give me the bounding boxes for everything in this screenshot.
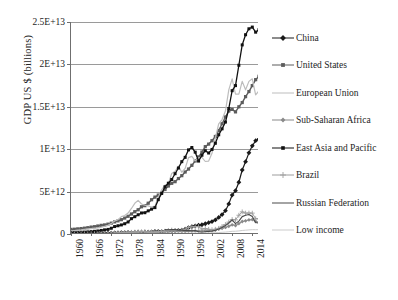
x-tick-mark	[71, 233, 72, 236]
legend-item-united-states[interactable]: United States	[272, 52, 398, 80]
x-tick-mark	[152, 233, 153, 236]
legend-item-label: Russian Federation	[296, 198, 369, 208]
legend-item-low-income[interactable]: Low income	[272, 217, 398, 245]
legend-item-label: China	[296, 33, 319, 43]
x-tick-mark	[172, 233, 173, 236]
y-tick-label: 1.5E+13	[32, 102, 71, 112]
x-tick-mark	[111, 233, 112, 236]
legend-item-russian-federation[interactable]: Russian Federation	[272, 189, 398, 217]
legend-swatch-icon	[272, 142, 294, 154]
legend-swatch-icon	[272, 169, 294, 181]
x-tick-label: 1978	[135, 239, 145, 258]
x-tick-mark	[131, 233, 132, 236]
x-tick-mark	[212, 233, 213, 236]
legend-item-east-asia-and-pacific[interactable]: East Asia and Pacific	[272, 134, 398, 162]
x-tick-label: 1984	[156, 239, 166, 258]
x-tick-label: 1996	[196, 239, 206, 258]
x-tick-mark	[192, 233, 193, 236]
y-tick-label: 2.5E+13	[32, 17, 71, 27]
gdp-line-chart-figure: GDP US $ (billions) 05E+121E+131.5E+132E…	[0, 0, 398, 300]
legend-item-label: Low income	[296, 225, 344, 235]
legend-item-label: Brazil	[296, 170, 319, 180]
legend-item-china[interactable]: China	[272, 24, 398, 52]
legend-swatch-icon	[272, 32, 294, 44]
x-tick-label: 1972	[115, 239, 125, 258]
plot-area: 05E+121E+131.5E+132E+132.5E+13 196019661…	[70, 22, 258, 234]
plot-inner	[71, 22, 258, 233]
x-tick-label: 1990	[176, 239, 186, 258]
series-united-states	[71, 75, 258, 231]
x-tick-mark	[252, 233, 253, 236]
legend-swatch-icon	[272, 224, 294, 236]
chart-legend: ChinaUnited StatesEuropean UnionSub-Saha…	[272, 24, 398, 244]
legend-item-label: East Asia and Pacific	[296, 143, 376, 153]
x-tick-label: 2014	[256, 239, 266, 258]
legend-item-sub-saharan-africa[interactable]: Sub-Saharan Africa	[272, 107, 398, 135]
series-lines	[71, 22, 258, 233]
y-tick-mark	[67, 192, 71, 193]
y-axis-title: GDP US $ (billions)	[22, 0, 33, 165]
legend-item-label: Sub-Saharan Africa	[296, 115, 371, 125]
legend-swatch-icon	[272, 87, 294, 99]
x-tick-label: 2008	[236, 239, 246, 258]
legend-swatch-icon	[272, 59, 294, 71]
y-tick-mark	[67, 22, 71, 23]
x-tick-mark	[91, 233, 92, 236]
x-tick-label: 2002	[216, 239, 226, 258]
x-tick-mark	[232, 233, 233, 236]
x-tick-label: 1960	[75, 239, 85, 258]
legend-item-european-union[interactable]: European Union	[272, 79, 398, 107]
y-tick-mark	[67, 149, 71, 150]
y-tick-mark	[67, 64, 71, 65]
x-tick-label: 1966	[95, 239, 105, 258]
legend-item-brazil[interactable]: Brazil	[272, 162, 398, 190]
legend-item-label: United States	[296, 60, 347, 70]
y-tick-mark	[67, 107, 71, 108]
legend-item-label: European Union	[296, 88, 359, 98]
legend-swatch-icon	[272, 197, 294, 209]
legend-swatch-icon	[272, 114, 294, 126]
